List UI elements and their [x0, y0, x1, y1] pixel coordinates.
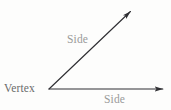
side-label-lower: Side	[104, 94, 125, 106]
vertex-label: Vertex	[4, 83, 35, 95]
side-label-upper: Side	[67, 34, 88, 46]
upper-ray-line	[49, 12, 130, 89]
angle-diagram-figure: Vertex Side Side	[0, 0, 171, 110]
